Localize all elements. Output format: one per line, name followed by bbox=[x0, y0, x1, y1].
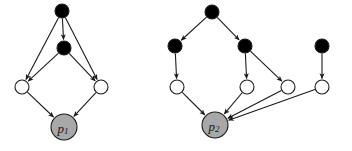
target-node-subscript: 2 bbox=[215, 124, 220, 134]
latent-node bbox=[15, 80, 29, 94]
graph-p1-edges bbox=[26, 18, 97, 117]
observed-node bbox=[168, 39, 182, 53]
observed-node bbox=[238, 39, 252, 53]
node-layer: p1p2 bbox=[15, 4, 329, 140]
graph-edge bbox=[224, 93, 242, 114]
graph-edge bbox=[181, 17, 206, 40]
observed-node bbox=[205, 5, 219, 19]
graph-p2-nodes: p2 bbox=[168, 5, 329, 138]
latent-node bbox=[94, 80, 108, 94]
graph-edge bbox=[245, 53, 246, 78]
graph-diagram: p1p2 bbox=[0, 0, 352, 151]
graph-p1-nodes: p1 bbox=[15, 4, 108, 140]
latent-node bbox=[170, 80, 184, 94]
observed-node bbox=[315, 39, 329, 53]
target-node-subscript: 1 bbox=[64, 126, 69, 136]
graph-edge bbox=[250, 51, 281, 81]
observed-node bbox=[55, 4, 69, 18]
latent-node bbox=[240, 80, 254, 94]
graph-edge bbox=[175, 53, 176, 78]
graph-edge bbox=[26, 18, 59, 80]
graph-edge bbox=[217, 17, 239, 40]
figure-canvas: p1p2 bbox=[0, 0, 352, 151]
graph-edge bbox=[74, 93, 96, 117]
observed-node bbox=[57, 41, 71, 55]
latent-node bbox=[315, 80, 329, 94]
graph-edge bbox=[182, 92, 204, 114]
graph-edge bbox=[27, 92, 53, 117]
latent-node bbox=[281, 80, 295, 94]
graph-edge bbox=[62, 18, 63, 39]
edge-layer bbox=[26, 17, 322, 120]
graph-p2-edges bbox=[175, 17, 322, 120]
